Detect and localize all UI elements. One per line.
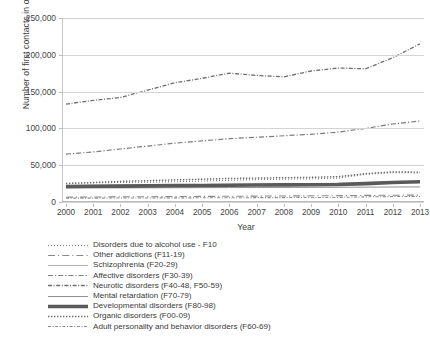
x-tick-label: 2011 — [351, 208, 381, 217]
x-tick-label: 2001 — [78, 208, 108, 217]
y-tick-label: 250,000 — [6, 13, 62, 23]
legend-item[interactable]: Neurotic disorders (F40-48, F50-59) — [46, 281, 426, 291]
y-tick-mark — [59, 18, 63, 19]
x-tick-label: 2006 — [214, 208, 244, 217]
legend-swatch — [46, 271, 90, 280]
legend-item[interactable]: Mental retardation (F70-79) — [46, 291, 426, 301]
x-tick-mark — [338, 204, 339, 207]
legend-label: Developmental disorders (F80-98) — [93, 301, 216, 311]
gridline — [62, 55, 424, 56]
x-tick-label: 2004 — [160, 208, 190, 217]
gridline — [62, 128, 424, 129]
x-tick-mark — [420, 204, 421, 207]
x-tick-label: 2013 — [405, 208, 430, 217]
x-tick-label: 2010 — [323, 208, 353, 217]
x-tick-label: 2012 — [378, 208, 408, 217]
legend-label: Other addictions (F11-19) — [93, 250, 185, 260]
x-tick-mark — [257, 204, 258, 207]
legend-item[interactable]: Other addictions (F11-19) — [46, 250, 426, 260]
x-tick-mark — [284, 204, 285, 207]
y-tick-label: 0 — [6, 197, 62, 207]
gridline — [62, 165, 424, 166]
y-axis-ticks: 050,000100,000150,000200,000250,000 — [0, 18, 62, 202]
legend-label: Disorders due to alcohol use - F10 — [93, 240, 217, 250]
series-line — [66, 195, 420, 197]
gridline — [62, 202, 424, 203]
y-tick-label: 200,000 — [6, 50, 62, 60]
legend-item[interactable]: Developmental disorders (F80-98) — [46, 301, 426, 311]
y-tick-label: 50,000 — [6, 160, 62, 170]
legend-swatch — [46, 292, 90, 301]
series-line — [66, 121, 420, 154]
x-tick-label: 2003 — [133, 208, 163, 217]
y-tick-label: 150,000 — [6, 87, 62, 97]
y-tick-label: 100,000 — [6, 123, 62, 133]
x-tick-label: 2009 — [296, 208, 326, 217]
x-tick-mark — [311, 204, 312, 207]
x-tick-mark — [120, 204, 121, 207]
series-line — [66, 44, 420, 104]
legend-swatch — [46, 261, 90, 270]
legend-item[interactable]: Adult personality and behavior disorders… — [46, 322, 426, 332]
series-layer — [62, 18, 424, 202]
x-tick-label: 2005 — [187, 208, 217, 217]
legend-label: Schizophrenia (F20-29) — [93, 260, 178, 270]
y-tick-mark — [59, 128, 63, 129]
legend-label: Organic disorders (F00-09) — [93, 311, 190, 321]
x-axis-title: Year — [62, 222, 430, 232]
gridline — [62, 18, 424, 19]
gridline — [62, 92, 424, 93]
y-tick-mark — [59, 55, 63, 56]
legend-swatch — [46, 322, 90, 331]
x-tick-mark — [148, 204, 149, 207]
x-tick-mark — [393, 204, 394, 207]
x-axis-ticks: 2000200120022003200420052006200720082009… — [62, 204, 424, 218]
x-tick-label: 2008 — [269, 208, 299, 217]
x-tick-mark — [175, 204, 176, 207]
legend-item[interactable]: Organic disorders (F00-09) — [46, 311, 426, 321]
x-tick-mark — [202, 204, 203, 207]
x-tick-mark — [66, 204, 67, 207]
legend-label: Adult personality and behavior disorders… — [93, 322, 271, 332]
x-tick-label: 2002 — [105, 208, 135, 217]
x-tick-mark — [229, 204, 230, 207]
legend-swatch — [46, 312, 90, 321]
legend-swatch — [46, 302, 90, 311]
chart-legend: Disorders due to alcohol use - F10Other … — [46, 240, 426, 332]
y-tick-mark — [59, 92, 63, 93]
x-tick-label: 2007 — [242, 208, 272, 217]
x-tick-mark — [93, 204, 94, 207]
legend-item[interactable]: Affective disorders (F30-39) — [46, 271, 426, 281]
y-tick-mark — [59, 165, 63, 166]
legend-item[interactable]: Disorders due to alcohol use - F10 — [46, 240, 426, 250]
legend-swatch — [46, 251, 90, 260]
legend-swatch — [46, 281, 90, 290]
plot-area — [62, 18, 424, 202]
legend-swatch — [46, 241, 90, 250]
x-tick-label: 2000 — [51, 208, 81, 217]
chart-root: Number of first contacts in outpatient s… — [0, 0, 430, 340]
legend-item[interactable]: Schizophrenia (F20-29) — [46, 260, 426, 270]
legend-label: Neurotic disorders (F40-48, F50-59) — [93, 281, 222, 291]
series-line — [66, 182, 420, 187]
y-tick-mark — [59, 202, 63, 203]
legend-label: Affective disorders (F30-39) — [93, 271, 193, 281]
x-tick-mark — [366, 204, 367, 207]
legend-label: Mental retardation (F70-79) — [93, 291, 192, 301]
